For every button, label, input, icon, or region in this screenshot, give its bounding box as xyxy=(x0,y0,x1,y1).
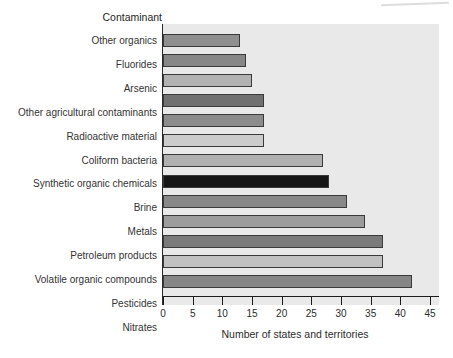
category-label-fluorides: Fluorides xyxy=(0,58,162,71)
x-tick-label-10: 10 xyxy=(217,307,228,320)
category-label-other-agricultural-contaminants: Other agricultural contaminants xyxy=(0,106,162,119)
bar-petroleum-products xyxy=(163,215,365,228)
x-axis-label-row: Number of states and territories xyxy=(162,328,439,342)
chart-body: Other organicsFluoridesArsenicOther agri… xyxy=(0,24,439,342)
x-tick-0 xyxy=(163,297,164,305)
bar-volatile-organic-compounds xyxy=(163,235,383,248)
bar-metals xyxy=(163,195,347,208)
category-label-pesticides: Pesticides xyxy=(0,297,162,310)
plot-area xyxy=(162,24,439,296)
x-tick-label-15: 15 xyxy=(246,307,257,320)
chart-title: Contaminant xyxy=(0,10,162,24)
x-tick-20 xyxy=(282,297,283,305)
bar-coliform-bacteria xyxy=(163,134,264,147)
x-tick-label-40: 40 xyxy=(395,307,406,320)
x-tick-15 xyxy=(252,297,253,305)
category-label-petroleum-products: Petroleum products xyxy=(0,249,162,262)
x-tick-10 xyxy=(222,297,223,305)
x-tick-label-25: 25 xyxy=(306,307,317,320)
bar-arsenic xyxy=(163,74,252,87)
category-label-metals: Metals xyxy=(0,225,162,238)
x-tick-label-35: 35 xyxy=(365,307,376,320)
x-tick-label-45: 45 xyxy=(424,307,435,320)
category-label-other-organics: Other organics xyxy=(0,34,162,47)
x-axis-tick-labels: 051015202530354045 xyxy=(162,307,439,320)
x-tick-label-20: 20 xyxy=(276,307,287,320)
x-axis-label: Number of states and territories xyxy=(221,328,368,340)
bar-radioactive-material xyxy=(163,114,264,127)
x-tick-25 xyxy=(311,297,312,305)
bar-chart: Contaminant Other organicsFluoridesArsen… xyxy=(0,10,439,342)
bar-pesticides xyxy=(163,255,383,268)
bar-other-agricultural-contaminants xyxy=(163,94,264,107)
bar-other-organics xyxy=(163,34,240,47)
plot-wrap: 051015202530354045 Number of states and … xyxy=(162,24,439,342)
x-axis xyxy=(162,296,439,305)
category-label-nitrates: Nitrates xyxy=(0,321,162,334)
x-tick-45 xyxy=(430,297,431,305)
category-label-arsenic: Arsenic xyxy=(0,82,162,95)
bar-brine xyxy=(163,175,329,188)
category-label-column: Other organicsFluoridesArsenicOther agri… xyxy=(0,24,162,342)
bar-synthetic-organic-chemicals xyxy=(163,154,323,167)
figure: Contaminant Other organicsFluoridesArsen… xyxy=(0,0,453,358)
category-label-radioactive-material: Radioactive material xyxy=(0,130,162,143)
x-tick-label-30: 30 xyxy=(335,307,346,320)
category-label-volatile-organic-compounds: Volatile organic compounds xyxy=(0,273,162,286)
category-label-brine: Brine xyxy=(0,201,162,214)
chart-title-row: Contaminant xyxy=(0,10,439,24)
x-tick-5 xyxy=(193,297,194,305)
bar-nitrates xyxy=(163,275,412,288)
x-tick-35 xyxy=(371,297,372,305)
scan-artifact xyxy=(381,2,449,6)
x-tick-30 xyxy=(341,297,342,305)
x-tick-40 xyxy=(400,297,401,305)
x-tick-label-5: 5 xyxy=(190,307,196,320)
x-tick-label-0: 0 xyxy=(160,307,166,320)
category-label-synthetic-organic-chemicals: Synthetic organic chemicals xyxy=(0,177,162,190)
bar-fluorides xyxy=(163,54,246,67)
category-label-coliform-bacteria: Coliform bacteria xyxy=(0,154,162,167)
